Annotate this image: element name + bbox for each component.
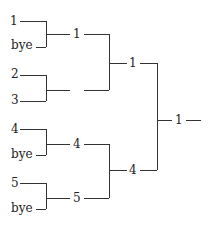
entry-5: 5	[10, 177, 20, 189]
bracket-line	[84, 144, 109, 145]
bracket-line	[157, 63, 158, 170]
round3-winner: 4	[128, 164, 138, 176]
entry-4: 4	[10, 123, 20, 135]
bracket-line	[157, 120, 172, 121]
bracket-line	[20, 129, 46, 130]
entry-3: 3	[10, 94, 20, 106]
bracket-line	[36, 47, 46, 48]
bracket-line	[20, 101, 46, 102]
bracket-line	[46, 75, 47, 101]
bracket-line	[20, 75, 46, 76]
bracket-line	[109, 170, 127, 171]
bracket-line	[36, 155, 46, 156]
bracket-line	[109, 144, 110, 198]
bracket-line	[109, 63, 127, 64]
entry-bye: bye	[10, 39, 34, 51]
bracket-line	[84, 90, 109, 91]
bracket-line	[140, 63, 157, 64]
bracket-line	[46, 34, 70, 35]
bracket-line	[109, 34, 110, 90]
bracket-line	[20, 21, 46, 22]
bracket-line	[140, 170, 157, 171]
bracket-line	[84, 198, 109, 199]
entry-bye: bye	[10, 148, 34, 160]
bracket-line	[46, 129, 47, 155]
champion: 1	[174, 114, 184, 126]
entry-2: 2	[10, 68, 20, 80]
round2-winner: 1	[72, 28, 82, 40]
bracket-line	[186, 120, 201, 121]
bracket-line	[36, 209, 46, 210]
bracket-line	[46, 90, 70, 91]
entry-bye: bye	[10, 202, 34, 214]
round2-winner: 4	[72, 138, 82, 150]
bracket-line	[46, 198, 70, 199]
bracket-line	[46, 183, 47, 209]
round3-winner: 1	[128, 57, 138, 69]
bracket-line	[20, 183, 46, 184]
round2-winner: 5	[72, 192, 82, 204]
bracket-line	[46, 144, 70, 145]
entry-1: 1	[9, 15, 19, 27]
bracket-line	[84, 34, 109, 35]
